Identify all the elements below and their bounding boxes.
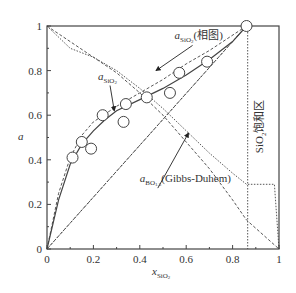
data-point <box>76 136 87 147</box>
annotation-label: aSiO2(相图) <box>175 29 224 44</box>
annotation-arrow <box>156 45 193 70</box>
data-point <box>120 99 131 110</box>
y-tick-label: 0.2 <box>28 198 42 210</box>
data-point <box>241 21 252 32</box>
y-axis-label: a <box>18 130 24 142</box>
y-tick-label: 1 <box>37 20 43 32</box>
x-axis-label-sub2: 2 <box>168 275 171 280</box>
annotation-label: aBO1.5(Gibbs-Duhem) <box>140 172 231 187</box>
x-tick-label: 0.2 <box>87 253 101 265</box>
y-tick-label: 0.4 <box>28 154 42 166</box>
data-point <box>67 152 78 163</box>
series-line <box>47 26 247 249</box>
data-point <box>97 110 108 121</box>
x-axis-label: xSiO2 <box>151 265 171 280</box>
data-point <box>86 143 97 154</box>
x-tick-label: 0.4 <box>133 253 147 265</box>
x-tick-label: 0.6 <box>179 253 193 265</box>
activity-chart: 00.20.40.60.8100.20.40.60.81 aSiO2(相图)aS… <box>0 0 296 293</box>
data-point <box>118 116 129 127</box>
x-tick-label: 0.8 <box>226 253 240 265</box>
y-tick-label: 0.6 <box>28 109 42 121</box>
series-line <box>47 26 247 249</box>
data-point <box>202 56 213 67</box>
series-line <box>47 26 247 249</box>
data-point <box>164 87 175 98</box>
y-tick-label: 0.8 <box>28 65 42 77</box>
data-point <box>141 92 152 103</box>
y-tick-label: 0 <box>37 243 43 255</box>
series-line <box>47 26 247 249</box>
data-point <box>174 67 185 78</box>
x-tick-label: 0 <box>44 253 50 265</box>
x-axis-label-sub: SiO <box>157 272 168 280</box>
x-tick-label: 1 <box>276 253 282 265</box>
annotation-arrow <box>110 86 114 111</box>
saturation-region-label: SiO2饱和区 <box>252 100 268 154</box>
